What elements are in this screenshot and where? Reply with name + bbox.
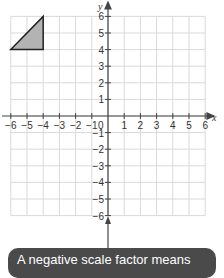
y-tick-label: −3 xyxy=(93,161,105,172)
x-tick-label: −2 xyxy=(70,120,82,131)
y-tick-label: 2 xyxy=(98,78,104,89)
x-tick-label: 1 xyxy=(121,120,127,131)
x-tick-label: −5 xyxy=(21,120,33,131)
x-tick-label: −3 xyxy=(54,120,66,131)
y-axis-label: y xyxy=(97,1,103,12)
y-tick-label: −5 xyxy=(93,194,105,205)
y-tick-label: 6 xyxy=(98,11,104,22)
y-tick-label: 1 xyxy=(98,94,104,105)
y-axis-arrow-icon xyxy=(105,2,111,9)
x-tick-label: 2 xyxy=(138,120,144,131)
y-tick-label: −6 xyxy=(93,211,105,222)
x-tick-label: −6 xyxy=(5,120,17,131)
x-tick-label: 4 xyxy=(170,120,176,131)
y-tick-label: −2 xyxy=(93,144,105,155)
tooltip-text: A negative scale factor means xyxy=(17,252,190,267)
y-tick-label: −4 xyxy=(93,177,105,188)
x-tick-label: −4 xyxy=(37,120,49,131)
y-tick-label: 3 xyxy=(98,61,104,72)
x-tick-label: 6 xyxy=(202,120,208,131)
x-tick-label: 5 xyxy=(186,120,192,131)
tooltip-callout: A negative scale factor means xyxy=(8,248,216,278)
y-tick-label: 5 xyxy=(98,28,104,39)
origin-label: 0 xyxy=(98,120,104,131)
y-tick-label: 4 xyxy=(98,45,104,56)
pointer-arrowhead-icon xyxy=(105,216,111,224)
x-axis-label: x xyxy=(211,112,217,123)
x-tick-label: 3 xyxy=(154,120,160,131)
